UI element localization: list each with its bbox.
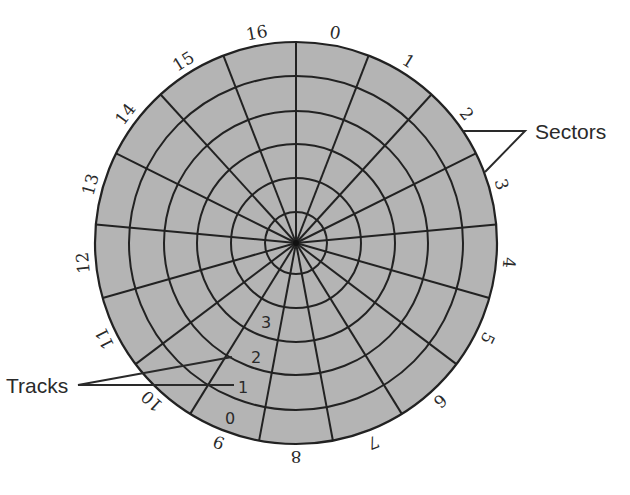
sector-label: 1	[399, 50, 419, 73]
sector-label: 12	[72, 251, 94, 274]
sector-label: 0	[328, 22, 342, 44]
sectors-callout: Sectors	[463, 120, 606, 172]
disk-diagram: 012345678910111213141516 0123 Sectors Tr…	[0, 0, 630, 495]
sector-label: 7	[365, 431, 382, 454]
sector-label: 4	[499, 256, 520, 269]
tracks-callout-label: Tracks	[6, 374, 68, 397]
track-label: 0	[225, 409, 235, 428]
track-label: 2	[251, 348, 261, 367]
track-label: 3	[261, 313, 271, 332]
disk-platter	[95, 42, 497, 444]
sector-label: 8	[291, 447, 302, 467]
sector-label: 9	[210, 431, 227, 454]
sector-label: 16	[244, 21, 269, 45]
sector-label: 13	[78, 171, 103, 197]
sectors-callout-label: Sectors	[535, 120, 606, 143]
sector-label: 2	[456, 104, 478, 125]
center-hub	[293, 240, 299, 246]
sector-label: 5	[476, 329, 499, 348]
sector-label: 6	[429, 390, 450, 412]
track-label: 1	[238, 378, 248, 397]
sector-label: 3	[491, 176, 513, 192]
